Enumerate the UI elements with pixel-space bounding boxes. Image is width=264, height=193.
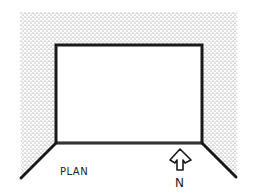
plan-diagram bbox=[0, 0, 264, 193]
room-outline bbox=[56, 45, 202, 143]
north-label: N bbox=[175, 176, 184, 190]
north-arrow-icon bbox=[170, 149, 191, 170]
plan-label: PLAN bbox=[60, 166, 88, 177]
